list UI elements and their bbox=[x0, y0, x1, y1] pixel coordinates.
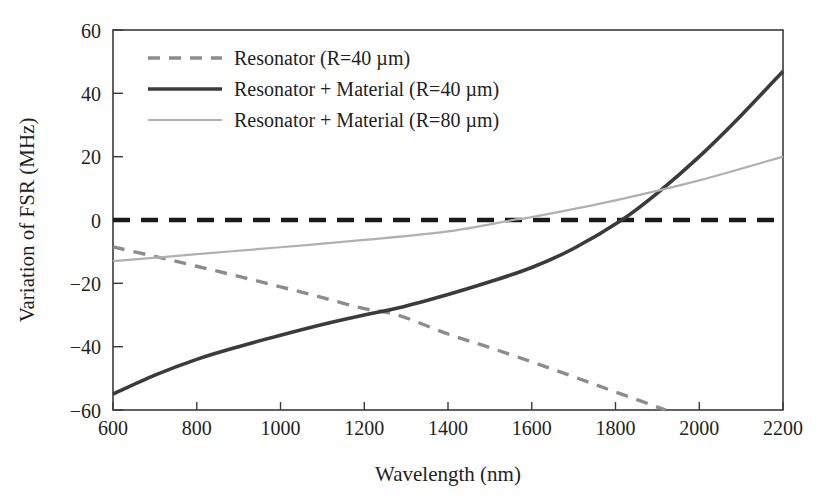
x-axis-title: Wavelength (nm) bbox=[375, 462, 521, 486]
series-line-resonator-r40 bbox=[113, 247, 666, 410]
x-axis-ticks bbox=[113, 402, 783, 410]
x-tick-label: 1200 bbox=[344, 417, 384, 439]
y-tick-label: 0 bbox=[91, 210, 101, 232]
y-tick-label: −20 bbox=[70, 273, 101, 295]
x-tick-label: 1400 bbox=[428, 417, 468, 439]
y-tick-labels: 60 40 20 0 −20 −40 −60 bbox=[70, 20, 101, 422]
x-tick-label: 1000 bbox=[261, 417, 301, 439]
y-tick-label: 20 bbox=[81, 146, 101, 168]
y-axis-title: Variation of FSR (MHz) bbox=[15, 118, 39, 323]
y-tick-label: 60 bbox=[81, 20, 101, 42]
legend-label-resonator-material-r40: Resonator + Material (R=40 µm) bbox=[234, 78, 499, 101]
x-tick-label: 2200 bbox=[763, 417, 803, 439]
x-tick-label: 800 bbox=[182, 417, 212, 439]
x-tick-label: 1600 bbox=[512, 417, 552, 439]
x-tick-label: 600 bbox=[98, 417, 128, 439]
y-tick-label: 40 bbox=[81, 83, 101, 105]
legend: Resonator (R=40 µm) Resonator + Material… bbox=[148, 47, 499, 132]
legend-label-resonator-material-r80: Resonator + Material (R=80 µm) bbox=[234, 109, 499, 132]
x-tick-label: 1800 bbox=[596, 417, 636, 439]
x-tick-labels: 600 800 1000 1200 1400 1600 1800 2000 22… bbox=[98, 417, 803, 439]
y-tick-label: −60 bbox=[70, 400, 101, 422]
x-tick-label: 2000 bbox=[679, 417, 719, 439]
legend-label-resonator-r40: Resonator (R=40 µm) bbox=[234, 47, 410, 70]
y-tick-label: −40 bbox=[70, 336, 101, 358]
chart-container: 600 800 1000 1200 1400 1600 1800 2000 22… bbox=[0, 0, 840, 502]
fsr-variation-line-chart: 600 800 1000 1200 1400 1600 1800 2000 22… bbox=[0, 0, 840, 502]
